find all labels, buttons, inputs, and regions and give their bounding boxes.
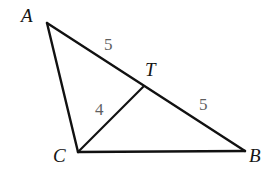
measure-label-ct: 4 (95, 101, 104, 118)
vertex-label-t: T (145, 60, 156, 79)
measure-label-tb: 5 (199, 96, 208, 113)
segment-CB (78, 151, 245, 152)
segment-AB (47, 23, 245, 151)
measure-label-at: 5 (104, 36, 113, 53)
triangle-figure (0, 0, 277, 175)
vertex-label-b: B (249, 146, 261, 165)
vertex-label-a: A (21, 6, 33, 25)
vertex-label-c: C (53, 146, 66, 165)
segment-AC (47, 23, 78, 152)
segment-CT (78, 87, 143, 152)
diagram-canvas: A T C B 5 5 4 (0, 0, 277, 175)
